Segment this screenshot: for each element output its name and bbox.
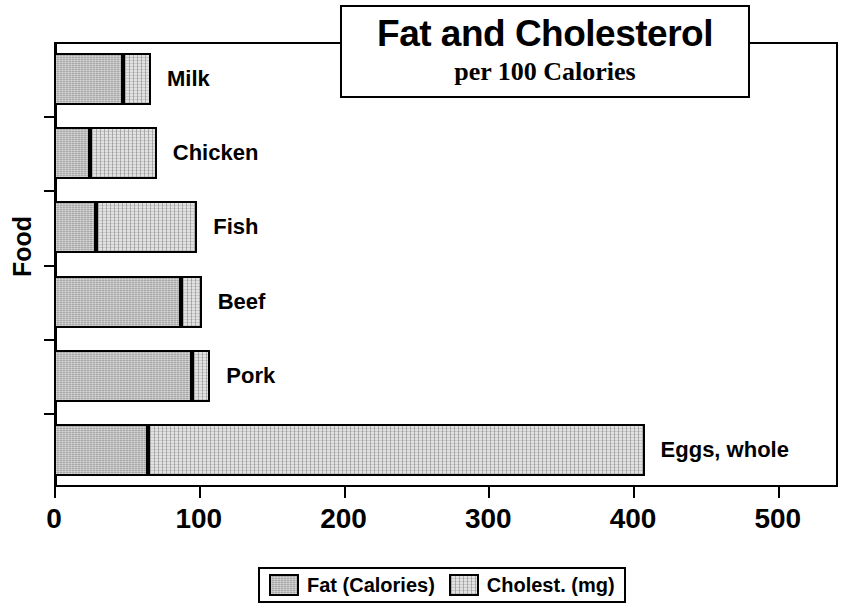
bar-row — [54, 201, 197, 253]
chart-title-box: Fat and Cholesterol per 100 Calories — [340, 5, 750, 98]
x-axis-tick — [633, 487, 635, 498]
legend-item: Cholest. (mg) — [449, 574, 615, 597]
bar-category-label: Pork — [226, 350, 275, 402]
bar-segment-cholesterol — [148, 424, 644, 476]
bar-category-label: Beef — [218, 276, 266, 328]
bar-segment-cholesterol — [96, 201, 197, 253]
bar-category-label: Chicken — [173, 127, 259, 179]
legend-label: Cholest. (mg) — [487, 574, 615, 597]
bar-segment-cholesterol — [192, 350, 211, 402]
bar-segment-cholesterol — [123, 53, 151, 105]
legend-item: Fat (Calories) — [269, 574, 435, 597]
y-axis-tick — [44, 116, 55, 118]
bar-category-label: Milk — [167, 53, 210, 105]
bar-segment-fat — [54, 424, 148, 476]
y-axis-tick — [44, 265, 55, 267]
fat-swatch — [269, 574, 299, 596]
bar-segment-fat — [54, 127, 90, 179]
x-axis-tick — [54, 487, 56, 498]
bar-segment-cholesterol — [181, 276, 201, 328]
legend-label: Fat (Calories) — [307, 574, 435, 597]
chart-subtitle: per 100 Calories — [342, 56, 748, 88]
bar-segment-fat — [54, 350, 192, 402]
chart-legend: Fat (Calories)Cholest. (mg) — [258, 567, 626, 603]
bar-row — [54, 53, 151, 105]
bar-segment-fat — [54, 53, 123, 105]
bar-segment-fat — [54, 276, 181, 328]
x-axis-tick — [199, 487, 201, 498]
chart-container: Food MilkChickenFishBeefPorkEggs, whole … — [0, 0, 848, 606]
cholesterol-swatch — [449, 574, 479, 596]
y-axis-tick — [44, 190, 55, 192]
x-axis-tick — [344, 487, 346, 498]
x-axis-tick — [778, 487, 780, 498]
bar-row — [54, 350, 210, 402]
y-axis-tick — [44, 339, 55, 341]
bar-row — [54, 276, 202, 328]
x-axis-tick — [488, 487, 490, 498]
bar-category-label: Eggs, whole — [661, 424, 789, 476]
bar-row — [54, 127, 157, 179]
bar-segment-fat — [54, 201, 96, 253]
y-axis-tick — [44, 413, 55, 415]
bar-category-label: Fish — [213, 201, 258, 253]
chart-title: Fat and Cholesterol — [342, 12, 748, 56]
bar-segment-cholesterol — [90, 127, 157, 179]
bar-row — [54, 424, 645, 476]
